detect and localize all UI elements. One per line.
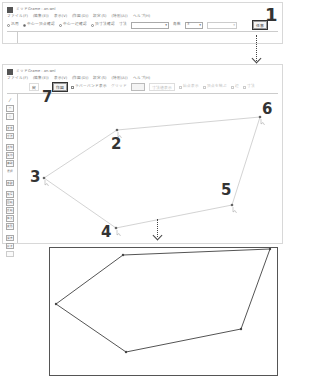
result-polygon — [50, 248, 279, 377]
callout-step-5: 5 — [221, 183, 231, 198]
result-preview — [49, 247, 278, 376]
callout-step-6: 6 — [262, 102, 272, 117]
callout-step-7: 7 — [42, 90, 52, 105]
callout-step-2: 2 — [111, 137, 121, 152]
callout-step-3: 3 — [30, 170, 40, 185]
callout-step-4: 4 — [101, 225, 111, 240]
